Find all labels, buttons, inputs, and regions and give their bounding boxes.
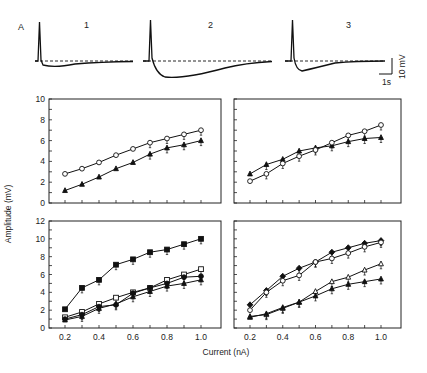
trace-label-1: 1 — [84, 20, 89, 30]
series-filled-triangles — [248, 276, 384, 319]
y-tick-label: 8 — [40, 115, 45, 125]
y-tick-label: 2 — [40, 177, 45, 187]
x-tick-label: 0.8 — [342, 332, 354, 342]
plot-panels: 02468100246810120.20.40.60.81.00.20.40.6… — [36, 94, 401, 342]
y-tick-label: 0 — [40, 198, 45, 208]
y-tick-label: 6 — [40, 270, 45, 280]
scale-bar-time: 1s — [382, 77, 391, 87]
panel-label-a: A — [18, 22, 24, 32]
series-filled-triangles — [63, 277, 204, 322]
series-filled-triangles — [63, 138, 204, 193]
y-tick-label: 10 — [36, 234, 46, 244]
panel-top-right — [234, 99, 401, 203]
x-axis-title: Current (nA) — [203, 347, 250, 357]
panel-bottom-right: 0.20.40.60.81.0 — [234, 221, 401, 342]
x-tick-label: 0.8 — [161, 332, 173, 342]
x-tick-label: 0.2 — [59, 332, 71, 342]
y-tick-label: 4 — [40, 287, 45, 297]
series-open-circles — [248, 240, 384, 313]
figure-canvas: A 1 2 3 1s 10 mV Amplitude (mV) Current … — [0, 0, 427, 373]
y-tick-label: 2 — [40, 305, 45, 315]
y-tick-label: 4 — [40, 156, 45, 166]
x-tick-label: 0.6 — [310, 332, 322, 342]
panel-top-left: 0246810 — [36, 94, 221, 208]
x-tick-label: 0.2 — [244, 332, 256, 342]
scale-bar-voltage: 10 mV — [397, 54, 407, 79]
x-tick-label: 1.0 — [375, 332, 387, 342]
y-tick-label: 8 — [40, 252, 45, 262]
trace-label-2: 2 — [208, 20, 213, 30]
y-axis-title: Amplitude (mV) — [3, 185, 13, 244]
y-tick-label: 0 — [40, 323, 45, 333]
series-open-circles — [63, 128, 204, 176]
series-open-circles — [248, 123, 384, 184]
x-tick-label: 0.4 — [93, 332, 105, 342]
x-tick-label: 1.0 — [195, 332, 207, 342]
y-tick-label: 10 — [36, 94, 46, 104]
trace-label-3: 3 — [346, 20, 351, 30]
panel-bottom-left: 0246810120.20.40.60.81.0 — [36, 216, 221, 342]
x-tick-label: 0.4 — [277, 332, 289, 342]
x-tick-label: 0.6 — [127, 332, 139, 342]
y-tick-label: 12 — [36, 216, 46, 226]
y-tick-label: 6 — [40, 136, 45, 146]
